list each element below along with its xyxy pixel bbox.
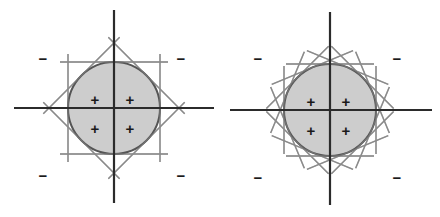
minus-sign-mark: − [177, 167, 186, 184]
minus-sign-mark: − [177, 50, 186, 67]
figure-root: ++++−−−− ++++−−−− [0, 0, 440, 217]
minus-sign-mark: − [254, 169, 263, 186]
plus-sign-mark: + [126, 91, 135, 108]
plus-sign-mark: + [126, 120, 135, 137]
plus-sign-mark: + [91, 91, 100, 108]
minus-sign-mark: − [39, 50, 48, 67]
plus-sign-mark: + [342, 122, 351, 139]
plus-sign-mark: + [307, 122, 316, 139]
minus-sign-mark: − [393, 50, 402, 67]
minus-sign-mark: − [393, 169, 402, 186]
plus-sign-mark: + [307, 93, 316, 110]
geometry-figure: ++++−−−− ++++−−−− [0, 0, 440, 217]
minus-sign-mark: − [254, 50, 263, 67]
plus-sign-mark: + [91, 120, 100, 137]
minus-sign-mark: − [39, 167, 48, 184]
plus-sign-mark: + [342, 93, 351, 110]
